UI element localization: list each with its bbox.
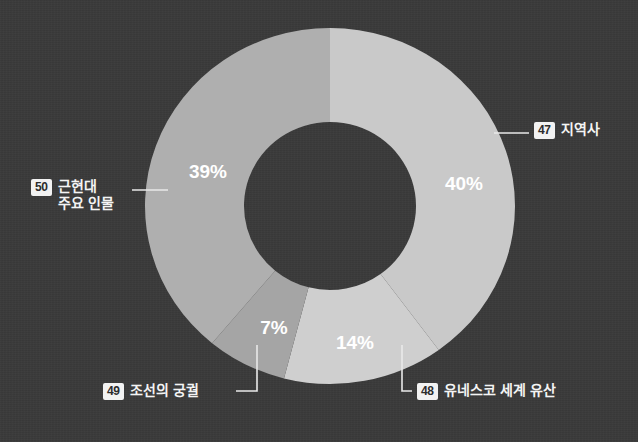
callout-palace[interactable]: 49 조선의 궁궐 xyxy=(103,382,199,400)
donut-chart-svg: 39% 40% 7% 14% xyxy=(0,0,638,442)
callout-label-palace: 조선의 궁궐 xyxy=(130,382,199,399)
percent-label-heritage: 14% xyxy=(336,332,374,353)
percent-label-region: 40% xyxy=(445,173,483,194)
callout-badge-49: 49 xyxy=(103,383,124,400)
callout-badge-50: 50 xyxy=(31,179,52,196)
donut-chart: 39% 40% 7% 14% 47 지역사 50 근현대 주요 인물 49 조선… xyxy=(0,0,638,442)
callout-label-people-line1: 근현대 xyxy=(58,178,97,194)
callout-label-heritage: 유네스코 세계 유산 xyxy=(444,382,556,399)
donut-slices xyxy=(145,28,515,384)
percent-label-palace: 7% xyxy=(260,317,288,338)
callout-region[interactable]: 47 지역사 xyxy=(534,121,600,139)
callout-label-people-line2: 주요 인물 xyxy=(58,195,114,212)
percent-label-people: 39% xyxy=(189,161,227,182)
callout-people[interactable]: 50 근현대 주요 인물 xyxy=(31,178,114,212)
callout-label-people: 근현대 주요 인물 xyxy=(58,178,114,212)
callout-badge-47: 47 xyxy=(534,122,555,139)
callout-badge-48: 48 xyxy=(417,383,438,400)
callout-heritage[interactable]: 48 유네스코 세계 유산 xyxy=(417,382,556,400)
callout-label-region: 지역사 xyxy=(561,121,600,138)
